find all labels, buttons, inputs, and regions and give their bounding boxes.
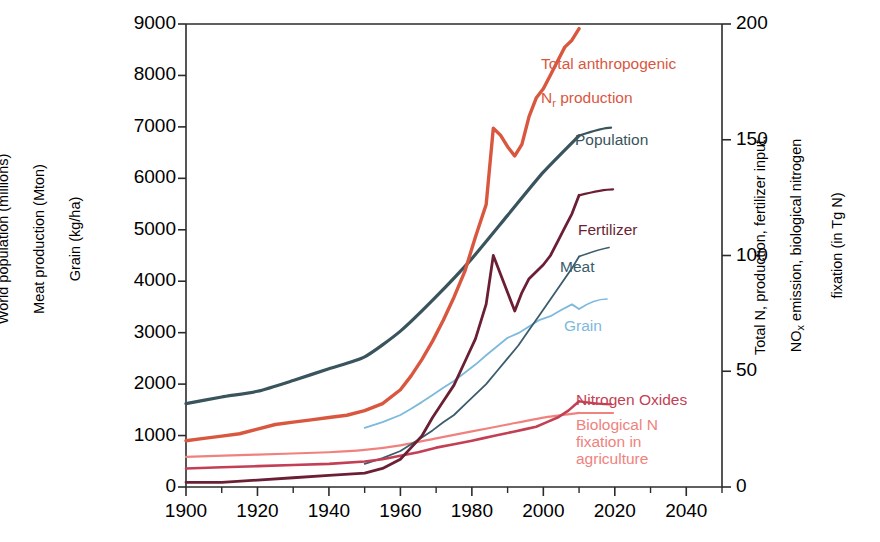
tick-label: 8000 [60,63,176,85]
tick-label: 0 [736,475,796,497]
meat-label: Meat [560,258,594,275]
tick-label: 5000 [60,218,176,240]
tick-label: 4000 [60,269,176,291]
nr-subscript: r [552,97,556,109]
tick-label: 200 [736,12,796,34]
tick-label: 2000 [60,372,176,394]
total-n-line2: Nr production [541,89,633,106]
tick-label: 7000 [60,115,176,137]
tick-label: 2000 [503,500,583,522]
figure-root: World population (millions) Meat product… [0,0,880,542]
fertilizer-label: Fertilizer [578,221,637,238]
tick-label: 0 [60,475,176,497]
tick-label: 3000 [60,321,176,343]
grain-label: Grain [564,317,602,334]
total-n-production-label: Total anthropogenic Nr production [541,38,676,112]
tick-label: 1960 [360,500,440,522]
tick-label: 9000 [60,12,176,34]
tick-label: 2020 [575,500,655,522]
tick-label: 1980 [432,500,512,522]
tick-label: 100 [736,244,796,266]
tick-label: 6000 [60,166,176,188]
population-label: Population [575,131,648,148]
tick-label: 50 [736,359,796,381]
tick-label: 1920 [217,500,297,522]
tick-label: 2040 [646,500,726,522]
tick-label: 1940 [289,500,369,522]
series-lines [186,29,579,483]
total-n-line1: Total anthropogenic [541,55,676,72]
biological-n-fixation-label: Biological N fixation in agriculture [576,416,658,467]
tick-label: 150 [736,128,796,150]
tick-label: 1000 [60,424,176,446]
nitrogen-oxides-label: Nitrogen Oxides [576,391,687,408]
tick-label: 1900 [146,500,226,522]
